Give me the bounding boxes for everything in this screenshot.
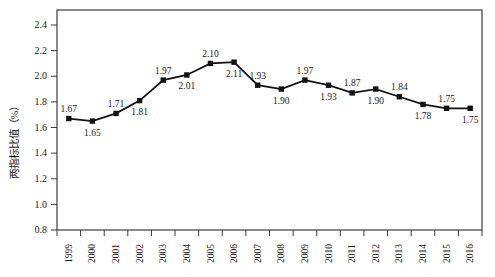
series-line	[69, 62, 470, 121]
line-chart-svg: 0.81.01.21.41.61.82.02.22.41999200020012…	[0, 0, 495, 277]
data-label: 1.71	[108, 99, 125, 109]
data-point-marker	[137, 98, 142, 103]
data-point-marker	[349, 90, 354, 95]
data-point-marker	[66, 116, 71, 121]
data-label: 1.81	[131, 107, 148, 117]
x-tick-label: 2013	[394, 244, 404, 263]
data-point-marker	[397, 94, 402, 99]
data-point-marker	[208, 61, 213, 66]
x-tick-label: 2014	[418, 244, 428, 263]
data-point-marker	[467, 106, 472, 111]
data-point-marker	[90, 118, 95, 123]
data-label: 1.84	[391, 82, 408, 92]
data-point-marker	[444, 106, 449, 111]
x-tick-label: 2006	[229, 244, 239, 263]
data-label: 1.75	[438, 94, 455, 104]
data-label: 1.87	[344, 78, 361, 88]
data-label: 1.90	[367, 96, 384, 106]
x-tick-label: 2000	[87, 244, 97, 263]
x-tick-label: 2004	[182, 244, 192, 263]
y-axis-title: 两指标比值（%）	[8, 101, 20, 180]
data-point-marker	[113, 111, 118, 116]
y-tick-label: 1.6	[35, 122, 48, 133]
x-tick-label: 2011	[347, 244, 357, 263]
y-tick-label: 2.0	[35, 70, 48, 81]
data-label: 2.11	[226, 69, 243, 79]
x-tick-label: 2009	[300, 244, 310, 263]
y-tick-label: 2.4	[35, 19, 48, 30]
data-point-marker	[420, 102, 425, 107]
y-tick-label: 2.2	[35, 45, 48, 56]
y-tick-label: 1.4	[35, 147, 48, 158]
x-tick-label: 2012	[371, 244, 381, 263]
data-point-marker	[255, 83, 260, 88]
data-point-marker	[184, 72, 189, 77]
data-point-marker	[326, 83, 331, 88]
data-point-marker	[279, 86, 284, 91]
data-point-marker	[373, 86, 378, 91]
data-label: 1.67	[60, 104, 77, 114]
data-label: 1.97	[297, 66, 314, 76]
y-tick-label: 1.0	[35, 199, 48, 210]
y-tick-label: 0.8	[35, 224, 48, 235]
x-tick-label: 2016	[465, 244, 475, 263]
y-tick-label: 1.8	[35, 96, 48, 107]
data-point-marker	[161, 77, 166, 82]
x-tick-label: 1999	[64, 244, 74, 263]
y-tick-label: 1.2	[35, 173, 48, 184]
data-label: 1.90	[273, 96, 290, 106]
data-label: 1.75	[462, 115, 479, 125]
x-tick-label: 2007	[253, 244, 263, 263]
data-label: 1.65	[84, 128, 101, 138]
x-tick-label: 2001	[111, 244, 121, 263]
data-point-marker	[231, 59, 236, 64]
data-label: 1.93	[249, 71, 266, 81]
line-chart-figure: 0.81.01.21.41.61.82.02.22.41999200020012…	[0, 0, 495, 277]
data-label: 1.78	[415, 111, 432, 121]
data-point-marker	[302, 77, 307, 82]
data-label: 2.10	[202, 49, 219, 59]
data-label: 2.01	[179, 81, 196, 91]
x-tick-label: 2010	[324, 244, 334, 263]
data-label: 1.93	[320, 92, 337, 102]
x-tick-label: 2015	[442, 244, 452, 263]
x-tick-label: 2003	[158, 244, 168, 263]
x-tick-label: 2005	[206, 244, 216, 263]
x-tick-label: 2008	[276, 244, 286, 263]
x-tick-label: 2002	[135, 244, 145, 263]
chart-page: 0.81.01.21.41.61.82.02.22.41999200020012…	[0, 0, 495, 277]
data-label: 1.97	[155, 66, 172, 76]
